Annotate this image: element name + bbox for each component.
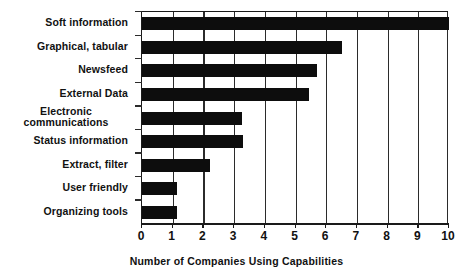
x-axis-tick bbox=[448, 223, 449, 228]
category-label-line: communications bbox=[2, 117, 130, 128]
bar bbox=[142, 206, 177, 219]
x-axis-tick bbox=[202, 223, 203, 228]
x-axis-tick-label: 8 bbox=[372, 229, 402, 243]
category-label: Extract, filter bbox=[0, 159, 128, 170]
category-label: Organizing tools bbox=[0, 206, 128, 217]
x-axis-title: Number of Companies Using Capabilities bbox=[0, 255, 473, 267]
x-axis-tick bbox=[325, 223, 326, 228]
category-label: Status information bbox=[0, 135, 128, 146]
y-axis-tick bbox=[135, 105, 142, 106]
bar bbox=[142, 88, 309, 101]
bar bbox=[142, 112, 242, 125]
x-axis-tick bbox=[141, 223, 142, 228]
x-axis-tick bbox=[417, 223, 418, 228]
category-label: Soft information bbox=[0, 17, 128, 28]
x-axis-tick bbox=[356, 223, 357, 228]
category-label: Electroniccommunications bbox=[2, 106, 130, 128]
x-axis-tick bbox=[295, 223, 296, 228]
bar bbox=[142, 41, 342, 54]
x-axis-tick-label: 7 bbox=[341, 229, 371, 243]
bar bbox=[142, 182, 177, 195]
x-axis-tick-label: 6 bbox=[310, 229, 340, 243]
x-axis-tick-label: 5 bbox=[280, 229, 310, 243]
y-axis-tick bbox=[135, 35, 142, 36]
x-axis-tick-label: 4 bbox=[249, 229, 279, 243]
x-axis-tick-label: 0 bbox=[126, 229, 156, 243]
x-axis-tick bbox=[387, 223, 388, 228]
y-axis-tick bbox=[135, 58, 142, 59]
y-axis-tick bbox=[135, 199, 142, 200]
y-axis-tick bbox=[135, 129, 142, 130]
bar bbox=[142, 17, 449, 30]
y-axis-tick bbox=[135, 82, 142, 83]
bar bbox=[142, 159, 210, 172]
x-axis-tick bbox=[233, 223, 234, 228]
x-axis-tick-label: 9 bbox=[402, 229, 432, 243]
category-label: External Data bbox=[0, 88, 128, 99]
plot-right-border bbox=[447, 12, 448, 223]
bar-chart-figure: Soft informationGraphical, tabularNewsfe… bbox=[0, 0, 473, 278]
plot-area bbox=[141, 11, 448, 223]
x-axis-tick-label: 1 bbox=[157, 229, 187, 243]
bar bbox=[142, 135, 243, 148]
x-axis-tick-label: 10 bbox=[433, 229, 463, 243]
x-axis-tick-label: 3 bbox=[218, 229, 248, 243]
category-axis-labels: Soft informationGraphical, tabularNewsfe… bbox=[0, 11, 134, 223]
category-label: User friendly bbox=[0, 182, 128, 193]
gridline-x-8 bbox=[388, 12, 389, 223]
category-label: Graphical, tabular bbox=[0, 41, 128, 52]
gridline-x-9 bbox=[418, 12, 419, 223]
y-axis-tick bbox=[135, 152, 142, 153]
x-axis-tick-label: 2 bbox=[187, 229, 217, 243]
x-axis-tick bbox=[172, 223, 173, 228]
bar bbox=[142, 64, 317, 77]
category-label: Newsfeed bbox=[0, 64, 128, 75]
y-axis-tick bbox=[135, 176, 142, 177]
x-axis-tick bbox=[264, 223, 265, 228]
gridline-x-7 bbox=[357, 12, 358, 223]
y-axis-tick bbox=[135, 11, 142, 12]
